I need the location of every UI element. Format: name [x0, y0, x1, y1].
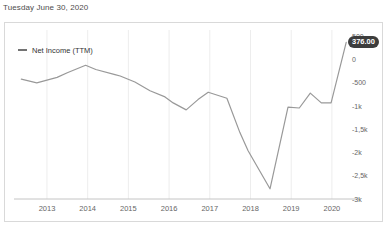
- x-tick-label: 2020: [324, 204, 341, 213]
- y-tick-label: -500: [352, 79, 366, 86]
- y-tick-label: -3k: [352, 196, 362, 203]
- chart-legend: Net Income (TTM): [18, 45, 93, 55]
- y-tick-label: -1,5k: [352, 126, 368, 133]
- x-tick-label: 2017: [201, 204, 218, 213]
- net-income-chart-card: 5000-500-1k-1,5k-2k-2,5k-3k2013201420152…: [4, 22, 383, 222]
- legend-series-label: Net Income (TTM): [32, 46, 93, 55]
- x-tick-label: 2013: [39, 204, 56, 213]
- last-value-badge: 376.00: [348, 36, 379, 48]
- x-tick-label: 2014: [79, 204, 96, 213]
- y-tick-label: -1k: [352, 103, 362, 110]
- x-tick-label: 2016: [161, 204, 178, 213]
- legend-line-swatch: [18, 49, 27, 51]
- y-tick-label: 0: [352, 56, 356, 63]
- y-tick-label: -2,5k: [352, 172, 368, 179]
- x-tick-label: 2015: [120, 204, 137, 213]
- y-tick-label: -2k: [352, 149, 362, 156]
- x-tick-label: 2019: [283, 204, 300, 213]
- date-label: Tuesday June 30, 2020: [3, 3, 88, 12]
- net-income-series-line: [21, 42, 346, 189]
- x-tick-label: 2018: [242, 204, 259, 213]
